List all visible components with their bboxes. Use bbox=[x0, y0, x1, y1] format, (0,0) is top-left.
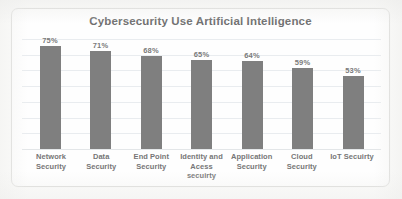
category-axis-labels: NetworkSecurityDataSecurityEnd PointSecu… bbox=[22, 152, 381, 181]
category-label-line: Security bbox=[229, 162, 275, 172]
bar[interactable] bbox=[141, 56, 162, 150]
chart-title: Cybersecurity Use Artificial Intelligenc… bbox=[12, 15, 389, 27]
category-label: End PointSecurity bbox=[128, 152, 174, 181]
bar-value-label: 68% bbox=[129, 46, 173, 55]
bar-value-label: 71% bbox=[79, 41, 123, 50]
category-label-line: Acess bbox=[178, 162, 224, 172]
axis-baseline bbox=[22, 149, 381, 150]
category-label-line: End Point bbox=[128, 152, 174, 162]
bar-group: 59% bbox=[281, 39, 325, 149]
category-label: CloudSecurity bbox=[279, 152, 325, 181]
bar-series: 75%71%68%65%64%59%53% bbox=[22, 39, 381, 149]
category-label: DataSecurity bbox=[78, 152, 124, 181]
category-label-line: Application bbox=[229, 152, 275, 162]
category-label: Identity andAcesssecuirty bbox=[178, 152, 224, 181]
bar[interactable] bbox=[343, 76, 364, 149]
bar-value-label: 65% bbox=[180, 50, 224, 59]
category-label-line: Security bbox=[28, 162, 74, 172]
bar-group: 65% bbox=[180, 39, 224, 149]
category-label: NetworkSecurity bbox=[28, 152, 74, 181]
bar-group: 75% bbox=[28, 39, 72, 149]
bar[interactable] bbox=[292, 68, 313, 149]
bar[interactable] bbox=[191, 60, 212, 149]
category-label-line: IoT Secuirty bbox=[329, 152, 375, 162]
bar-value-label: 75% bbox=[28, 36, 72, 45]
bar-group: 64% bbox=[230, 39, 274, 149]
bar-value-label: 59% bbox=[281, 58, 325, 67]
category-label-line: secuirty bbox=[178, 171, 224, 181]
category-label-line: Security bbox=[279, 162, 325, 172]
bar-group: 68% bbox=[129, 39, 173, 149]
category-label-line: Network bbox=[28, 152, 74, 162]
bar[interactable] bbox=[242, 61, 263, 149]
category-label: IoT Secuirty bbox=[329, 152, 375, 181]
category-label-line: Security bbox=[78, 162, 124, 172]
category-label-line: Data bbox=[78, 152, 124, 162]
chart-container: Cybersecurity Use Artificial Intelligenc… bbox=[11, 8, 390, 187]
category-label: ApplicationSecurity bbox=[229, 152, 275, 181]
bar[interactable] bbox=[40, 46, 61, 149]
bar-group: 71% bbox=[79, 39, 123, 149]
bar-group: 53% bbox=[331, 39, 375, 149]
bar-value-label: 64% bbox=[230, 51, 274, 60]
category-label-line: Security bbox=[128, 162, 174, 172]
category-label-line: Identity and bbox=[178, 152, 224, 162]
category-label-line: Cloud bbox=[279, 152, 325, 162]
plot-area: 75%71%68%65%64%59%53% bbox=[22, 39, 381, 149]
bar[interactable] bbox=[90, 51, 111, 149]
bar-value-label: 53% bbox=[331, 66, 375, 75]
scanned-page: Cybersecurity Use Artificial Intelligenc… bbox=[0, 0, 402, 199]
